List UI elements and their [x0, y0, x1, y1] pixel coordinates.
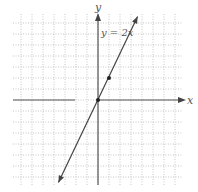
coordinate-graph: y x y = 2x	[0, 0, 198, 192]
x-axis-arrow-icon	[178, 97, 186, 103]
equation-label: y = 2x	[100, 27, 134, 38]
y-axis-label: y	[94, 1, 102, 14]
x-axis-label: x	[187, 94, 194, 107]
line-arrow-bottom-icon	[58, 175, 64, 183]
point-origin	[96, 98, 100, 102]
line-arrow-top-icon	[132, 16, 138, 24]
y-axis-arrow-icon	[95, 13, 101, 21]
point-1-2	[107, 76, 111, 80]
